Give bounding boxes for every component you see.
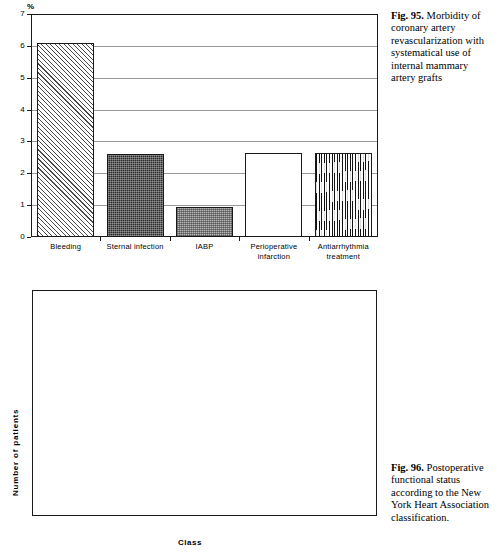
y-tick-label: 7 bbox=[0, 9, 25, 18]
x-tick-label: IABP bbox=[170, 242, 239, 252]
y-tick-label: 2 bbox=[0, 168, 25, 177]
figure-96-caption-label: Fig. 96. bbox=[391, 462, 424, 473]
figure-96-caption: Fig. 96. Postoperative functional status… bbox=[391, 462, 495, 524]
x-tick-label: Sternal infection bbox=[100, 242, 169, 252]
bar bbox=[37, 43, 94, 237]
bar bbox=[245, 153, 302, 237]
bar bbox=[315, 153, 372, 237]
y-tick-mark bbox=[27, 14, 31, 15]
bar bbox=[176, 207, 233, 237]
y-tick-label: 1 bbox=[0, 200, 25, 209]
y-tick-mark bbox=[27, 237, 31, 238]
y-tick-mark bbox=[27, 78, 31, 79]
fig96-plot-area bbox=[32, 290, 377, 516]
x-tick-label: Antiarrhythmia treatment bbox=[309, 242, 378, 261]
y-tick-mark bbox=[27, 46, 31, 47]
x-tick-mark bbox=[170, 237, 171, 241]
figure-95-caption: Fig. 95. Morbidity of coronary artery re… bbox=[391, 10, 495, 84]
fig96-y-title: Number of patients bbox=[11, 409, 20, 496]
y-tick-label: 3 bbox=[0, 136, 25, 145]
bar bbox=[107, 154, 164, 237]
x-tick-mark bbox=[309, 237, 310, 241]
figure-95-caption-label: Fig. 95. bbox=[391, 10, 424, 21]
x-tick-mark bbox=[239, 237, 240, 241]
y-tick-label: 0 bbox=[0, 232, 25, 241]
y-tick-label: 5 bbox=[0, 73, 25, 82]
y-tick-label: 4 bbox=[0, 105, 25, 114]
fig95-y-unit: % bbox=[27, 2, 34, 11]
y-tick-mark bbox=[27, 173, 31, 174]
y-tick-mark bbox=[27, 141, 31, 142]
x-tick-mark bbox=[100, 237, 101, 241]
x-tick-label: Perioperative infarction bbox=[239, 242, 308, 261]
figure-95: % 01234567 BleedingSternal infectionIABP… bbox=[0, 0, 390, 262]
y-tick-mark bbox=[27, 205, 31, 206]
figure-page: % 01234567 BleedingSternal infectionIABP… bbox=[0, 0, 499, 560]
fig96-x-title: Class bbox=[160, 538, 220, 547]
figure-96: Number of patients 01020304050607080 III… bbox=[0, 284, 390, 560]
y-tick-mark bbox=[27, 110, 31, 111]
x-tick-label: Bleeding bbox=[31, 242, 100, 252]
y-tick-label: 6 bbox=[0, 41, 25, 50]
